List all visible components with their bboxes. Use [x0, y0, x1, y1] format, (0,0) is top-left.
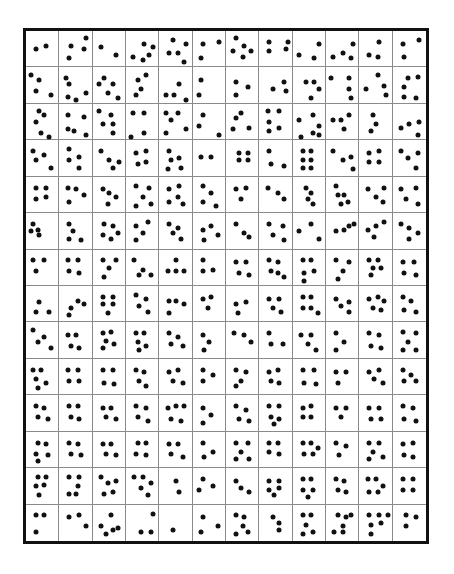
dot	[308, 294, 313, 299]
dot	[230, 49, 235, 54]
dot	[308, 222, 313, 227]
dot	[275, 367, 280, 372]
dot	[400, 41, 405, 46]
dot	[215, 232, 220, 237]
dot	[339, 118, 344, 123]
grid-cell	[259, 322, 292, 358]
dot	[308, 165, 313, 170]
dot	[135, 415, 140, 420]
grid-cell	[193, 505, 226, 541]
dot	[234, 478, 239, 483]
dot	[135, 440, 140, 445]
dot	[30, 149, 35, 154]
grid-cell	[59, 432, 92, 468]
dot	[240, 524, 245, 529]
dot	[113, 52, 118, 57]
dot	[144, 384, 149, 389]
grid-cell	[259, 104, 292, 140]
grid-cell	[226, 286, 259, 322]
dot	[65, 258, 70, 263]
dot	[168, 451, 173, 456]
dot	[402, 54, 407, 59]
dot	[270, 305, 275, 310]
dot	[67, 222, 72, 227]
dot	[345, 200, 350, 205]
dot	[244, 407, 249, 412]
dot	[402, 307, 407, 312]
dot	[100, 345, 105, 350]
dot	[175, 442, 180, 447]
dot	[149, 273, 154, 278]
dot	[142, 41, 147, 46]
grid-cell	[26, 359, 59, 395]
dot	[173, 269, 178, 274]
dot	[365, 187, 370, 192]
dot	[100, 302, 105, 307]
dot	[167, 149, 172, 154]
dot	[300, 513, 305, 518]
dot	[303, 79, 308, 84]
dot	[300, 440, 305, 445]
dot	[377, 367, 382, 372]
grid-cell	[326, 213, 359, 249]
dot	[302, 380, 307, 385]
dot	[75, 404, 80, 409]
dot	[37, 232, 42, 237]
dot	[110, 121, 115, 126]
grid-cell	[326, 322, 359, 358]
dot	[75, 258, 80, 263]
dot	[103, 338, 108, 343]
dot	[180, 344, 185, 349]
grid-cell	[359, 31, 392, 67]
grid-cell	[26, 468, 59, 504]
dot	[167, 187, 172, 192]
dot	[339, 415, 344, 420]
grid-cell	[326, 359, 359, 395]
dot	[277, 109, 282, 114]
grid-cell	[159, 505, 192, 541]
dot	[267, 440, 272, 445]
dot	[403, 196, 408, 201]
dot	[413, 185, 418, 190]
dot	[268, 415, 273, 420]
dot	[385, 513, 390, 518]
dot	[65, 333, 70, 338]
dot	[200, 296, 205, 301]
dot	[372, 376, 377, 381]
dot	[265, 185, 270, 190]
dot	[300, 406, 305, 411]
grid-cell	[359, 140, 392, 176]
dot	[30, 367, 35, 372]
grid-cell	[293, 104, 326, 140]
dot	[44, 43, 49, 48]
dot	[163, 130, 168, 135]
dot	[347, 260, 352, 265]
dot	[400, 404, 405, 409]
dot	[415, 74, 420, 79]
dot	[373, 121, 378, 126]
grid-cell	[93, 286, 126, 322]
dot	[237, 416, 242, 421]
dot	[108, 329, 113, 334]
dot	[410, 487, 415, 492]
grid-cell	[393, 213, 426, 249]
dot	[317, 132, 322, 137]
dot	[130, 110, 135, 115]
dot	[232, 331, 237, 336]
dot	[105, 311, 110, 316]
grid-cell	[293, 140, 326, 176]
dot	[77, 416, 82, 421]
dot	[310, 487, 315, 492]
grid-cell	[59, 177, 92, 213]
grid-cell	[93, 322, 126, 358]
dot	[370, 112, 375, 117]
dot	[167, 331, 172, 336]
dot	[197, 123, 202, 128]
grid-cell	[226, 468, 259, 504]
dot	[335, 276, 340, 281]
dot	[308, 149, 313, 154]
dot	[239, 486, 244, 491]
dot	[103, 531, 108, 536]
dot	[372, 234, 377, 239]
dot	[365, 477, 370, 482]
